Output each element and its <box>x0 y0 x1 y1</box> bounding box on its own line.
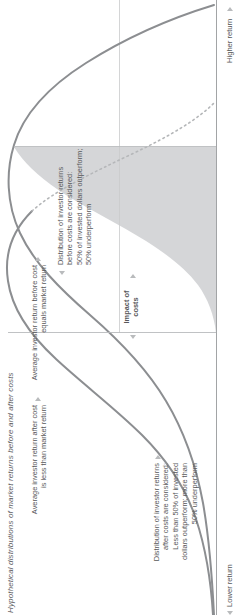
higher-return-arrow-icon <box>227 7 233 11</box>
pointer-triangle-icon <box>35 397 41 401</box>
annotation-distribution-before-costs: Distribution of investor returns before … <box>56 105 94 265</box>
axis-label-lower-return: Lower return <box>225 564 234 607</box>
annotation-mean-before-costs: Average investor return before cost equa… <box>30 265 49 385</box>
axis-label-higher-return: Higher return <box>225 19 234 63</box>
impact-arrow-left-icon <box>130 335 136 339</box>
distribution-figure: Hypothetical distributions of market ret… <box>0 0 252 615</box>
figure-title: Hypothetical distributions of market ret… <box>6 372 15 613</box>
pointer-triangle-icon <box>35 257 41 261</box>
lower-return-arrow-icon <box>227 611 233 615</box>
pointer-triangle-icon <box>59 271 65 275</box>
annotation-mean-after-costs: Average investor return after cost is le… <box>30 405 49 517</box>
annotation-distribution-after-costs: Distribution of investor returns after c… <box>152 463 199 613</box>
figure-canvas: Hypothetical distributions of market ret… <box>0 0 252 615</box>
annotation-impact-of-costs: Impact of costs <box>122 281 140 333</box>
impact-arrow-right-icon <box>130 274 136 278</box>
pointer-triangle-icon <box>155 455 161 459</box>
